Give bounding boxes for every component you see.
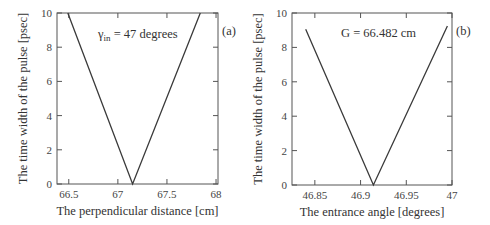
x-tick-label: 67.5	[157, 188, 177, 200]
x-tick-label: 47	[447, 189, 459, 201]
y-tick-label: 8	[282, 41, 288, 53]
chart-panel-a: 66.56767.5680246810The perpendicular dis…	[16, 7, 236, 218]
x-axis-title: The entrance angle [degrees]	[300, 205, 445, 219]
y-tick-label: 2	[282, 145, 288, 157]
y-tick-label: 0	[282, 179, 288, 191]
y-tick-label: 8	[47, 41, 53, 53]
y-tick-label: 4	[47, 110, 53, 122]
panel-label: (b)	[456, 24, 471, 38]
x-tick-label: 46.95	[394, 189, 419, 201]
x-axis-title: The perpendicular distance [cm]	[56, 204, 218, 218]
x-tick-label: 66.5	[59, 188, 79, 200]
data-line	[306, 26, 448, 185]
x-tick-label: 68	[211, 188, 223, 200]
parameter-annotation: G = 66.482 cm	[341, 26, 416, 40]
y-tick-label: 10	[276, 7, 288, 19]
y-axis-title: The time width of the pulse [psec]	[16, 13, 30, 184]
panel-label: (a)	[222, 24, 236, 38]
y-tick-label: 2	[47, 144, 53, 156]
chart-panel-b: 46.8546.946.95470246810The entrance angl…	[251, 7, 471, 219]
x-tick-label: 67	[112, 188, 124, 200]
figure-canvas: 66.56767.5680246810The perpendicular dis…	[0, 0, 490, 225]
x-tick-label: 46.85	[302, 189, 327, 201]
y-tick-label: 6	[47, 75, 53, 87]
x-tick-label: 46.9	[351, 189, 371, 201]
y-tick-label: 0	[47, 178, 53, 190]
y-axis-title: The time width of the pulse [psec]	[251, 13, 265, 184]
y-tick-label: 6	[282, 76, 288, 88]
y-tick-label: 4	[282, 110, 288, 122]
parameter-annotation: γin = 47 degrees	[97, 27, 178, 43]
y-tick-label: 10	[41, 7, 53, 19]
